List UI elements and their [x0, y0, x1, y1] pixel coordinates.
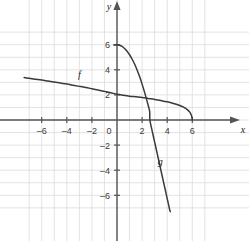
y-tick-label: –6 — [100, 191, 110, 201]
y-axis-arrow — [113, 1, 120, 10]
x-tick-label: 6 — [190, 126, 195, 136]
x-tick-label: –6 — [37, 126, 47, 136]
y-axis-label: y — [106, 1, 112, 12]
x-axis-arrow — [230, 116, 240, 123]
curve-label-f: f — [78, 69, 82, 80]
y-tick-label: 4 — [105, 65, 110, 75]
x-axis-label: x — [240, 124, 246, 135]
y-tick-label: –2 — [100, 141, 110, 151]
graph-figure: –6–4–20246642–2–4–6 fgxy — [0, 0, 249, 241]
axes — [0, 1, 240, 241]
coordinate-plane: –6–4–20246642–2–4–6 fgxy — [0, 0, 249, 241]
curve-label-g: g — [158, 156, 163, 167]
y-tick-label: –4 — [100, 166, 110, 176]
x-tick-label: 4 — [165, 126, 170, 136]
y-tick-label: 6 — [105, 40, 110, 50]
x-tick-label: –2 — [87, 126, 97, 136]
x-tick-label: 2 — [140, 126, 145, 136]
x-tick-label: –4 — [62, 126, 72, 136]
origin-label: 0 — [106, 126, 111, 136]
